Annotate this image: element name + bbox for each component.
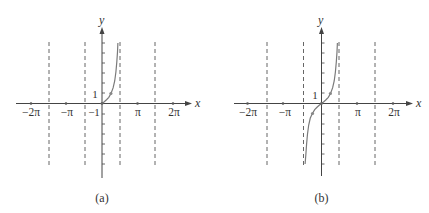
- caption-b: (b): [315, 191, 329, 205]
- y-tick-label-1-b: 1: [312, 89, 318, 101]
- y-axis-label-b: y: [317, 13, 324, 27]
- x-tick-label-neg-pi-b: −π: [279, 106, 291, 118]
- point-origin-a: [101, 102, 104, 105]
- x-axis-label-a: x: [194, 96, 201, 110]
- y-axis-arrow-b: [319, 27, 324, 34]
- y-axis-arrow-a: [100, 27, 105, 34]
- y-tick-label-neg1-a: −1: [88, 106, 100, 118]
- x-tick-label-neg-pi-a: −π: [61, 106, 73, 118]
- y-tick-label-1-a: 1: [92, 88, 98, 100]
- panel-b: x y −2π −π π 2π 1: [234, 13, 422, 205]
- y-axis-label-a: y: [98, 13, 105, 27]
- x-axis-arrow-b: [406, 101, 413, 106]
- x-tick-label-pi-a: π: [135, 106, 141, 118]
- x-tick-label-2pi-b: 2π: [388, 106, 400, 118]
- panel-a: x y −2π −π π 2π: [16, 13, 201, 205]
- x-tick-label-neg-2pi-b: −2π: [239, 106, 257, 118]
- point-pi4-1-b: [329, 92, 332, 95]
- point-neg-pi4-neg1-b: [311, 112, 314, 115]
- x-axis-label-b: x: [415, 96, 422, 110]
- point-origin-b: [320, 102, 323, 105]
- x-axis-arrow-a: [185, 101, 192, 106]
- figure-canvas: x y −2π −π π 2π: [0, 0, 429, 213]
- point-pi4-1-a: [109, 92, 112, 95]
- caption-a: (a): [95, 191, 108, 205]
- x-tick-label-neg-2pi-a: −2π: [22, 106, 40, 118]
- x-tick-label-2pi-a: 2π: [168, 106, 180, 118]
- x-tick-label-pi-b: π: [355, 106, 361, 118]
